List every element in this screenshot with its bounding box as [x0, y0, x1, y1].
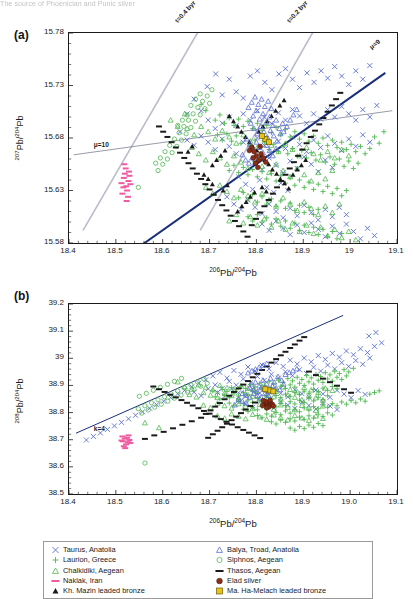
panel-b-ytick-3: 38.8	[28, 407, 64, 416]
cross-x-icon	[50, 545, 61, 555]
legend-item-label: Siphnos, Aegean	[227, 555, 283, 565]
panel-a: (a) 207Pb/204Pb 206Pb/204Pb 18.418.518.6…	[0, 14, 413, 279]
panel-a-xtick-4: 18.8	[239, 246, 271, 255]
isochron-0.4byr	[83, 33, 210, 230]
legend-item-label: Elad silver	[227, 576, 261, 586]
series-3	[119, 164, 134, 201]
panel-b-xtick-2: 18.6	[146, 497, 178, 506]
legend-item-0-4[interactable]: Kh. Mazin leaded bronze	[50, 586, 204, 596]
panel-b-ytick-2: 38.7	[28, 434, 64, 443]
panel-b-plot-area	[68, 303, 398, 495]
legend-item-label: Kh. Mazin leaded bronze	[63, 586, 145, 596]
series-3	[119, 435, 134, 448]
panel-b-xtick-1: 18.5	[99, 497, 131, 506]
legend-item-0-2[interactable]: Chalkidiki, Aegean	[50, 565, 204, 575]
legend-item-1-2[interactable]: Thasos, Aegean	[214, 565, 368, 575]
triangle-filled-icon	[50, 586, 61, 596]
panel-b-y-axis-label: 208Pb/204Pb	[13, 366, 25, 436]
panel-b-ytick-4: 38.9	[28, 379, 64, 388]
legend-column-1: Balya, Troad, AnatoliaSiphnos, AegeanTha…	[208, 542, 372, 598]
legend-box: Taurus, AnatoliaLaurion, GreeceChalkidik…	[43, 541, 373, 599]
panel-a-xtick-1: 18.5	[99, 246, 131, 255]
panel-b-ytick-5: 39	[28, 352, 64, 361]
panel-a-y-axis-label: 207Pb/204Pb	[13, 103, 25, 173]
circle-open-icon	[214, 555, 225, 565]
panel-b-x-axis-label: 206Pb/204Pb	[68, 517, 398, 529]
legend-item-1-3[interactable]: Elad silver	[214, 576, 368, 586]
legend-item-label: Balya, Troad, Anatolia	[227, 545, 299, 555]
panel-b-xtick-7: 19.1	[380, 497, 412, 506]
panel-a-plot-area	[68, 32, 398, 244]
legend-item-0-3[interactable]: Naklak, Iran	[50, 576, 204, 586]
panel-b-xtick-3: 18.7	[193, 497, 225, 506]
series-6	[136, 376, 209, 465]
panel-b: (b) 208Pb/204Pb 206Pb/204Pb 18.418.518.6…	[0, 285, 413, 540]
plus-icon	[50, 555, 61, 565]
panel-a-ytick-3: 15.73	[28, 80, 64, 89]
panel-a-xtick-5: 18.9	[286, 246, 318, 255]
panel-a-ytick-4: 15.78	[28, 27, 64, 36]
panel-b-xtick-0: 18.4	[52, 497, 84, 506]
mu-10-line	[74, 111, 393, 155]
legend-item-label: Chalkidiki, Aegean	[63, 566, 124, 576]
legend-item-label: Taurus, Anatolia	[63, 545, 116, 555]
panel-b-xtick-4: 18.8	[239, 497, 271, 506]
panel-a-xtick-3: 18.7	[193, 246, 225, 255]
series-2	[142, 379, 334, 429]
panel-a-x-axis-label: 206Pb/204Pb	[68, 266, 398, 278]
legend-item-1-0[interactable]: Balya, Troad, Anatolia	[214, 545, 368, 555]
panel-a-annotation-2: μ=10	[94, 141, 109, 148]
panel-b-ytick-0: 38.5	[28, 488, 64, 497]
dash-icon	[50, 576, 61, 586]
panel-b-canvas	[69, 304, 397, 494]
legend-item-1-1[interactable]: Siphnos, Aegean	[214, 555, 368, 565]
panel-b-xtick-5: 18.9	[286, 497, 318, 506]
legend-item-label: Ma. Ha-Melach leaded bronze	[227, 586, 326, 596]
triangle-open-icon	[50, 566, 61, 576]
triangle-open-icon	[214, 545, 225, 555]
panel-a-ytick-2: 15.68	[28, 132, 64, 141]
panel-a-ytick-1: 15.63	[28, 185, 64, 194]
panel-a-xtick-7: 19.1	[380, 246, 412, 255]
legend-item-label: Laurion, Greece	[63, 555, 116, 565]
legend-item-label: Naklak, Iran	[63, 576, 102, 586]
square-filled-icon	[214, 586, 225, 596]
panel-b-ytick-1: 38.6	[28, 461, 64, 470]
panel-a-canvas	[69, 33, 397, 243]
panel-b-ytick-7: 39.2	[28, 298, 64, 307]
dash-icon	[214, 566, 225, 576]
k4-line	[76, 315, 343, 433]
panel-a-xtick-0: 18.4	[52, 246, 84, 255]
panel-b-annotation-0: k=4	[94, 425, 105, 432]
panel-a-xtick-6: 19	[333, 246, 365, 255]
circle-filled-icon	[214, 576, 225, 586]
legend-item-0-0[interactable]: Taurus, Anatolia	[50, 545, 204, 555]
top-text-fragment: The source of Phoenician and Punic silve…	[0, 0, 413, 11]
panel-a-xtick-2: 18.6	[146, 246, 178, 255]
legend-column-0: Taurus, AnatoliaLaurion, GreeceChalkidik…	[44, 542, 208, 598]
panel-b-ytick-6: 39.1	[28, 325, 64, 334]
panel-a-ytick-0: 15.58	[28, 237, 64, 246]
series-6	[136, 88, 214, 190]
legend-item-label: Thasos, Aegean	[227, 566, 280, 576]
panel-b-xtick-6: 19.0	[333, 497, 365, 506]
panel-a-tag: (a)	[14, 28, 29, 42]
legend-item-0-1[interactable]: Laurion, Greece	[50, 555, 204, 565]
legend-item-1-4[interactable]: Ma. Ha-Melach leaded bronze	[214, 586, 368, 596]
